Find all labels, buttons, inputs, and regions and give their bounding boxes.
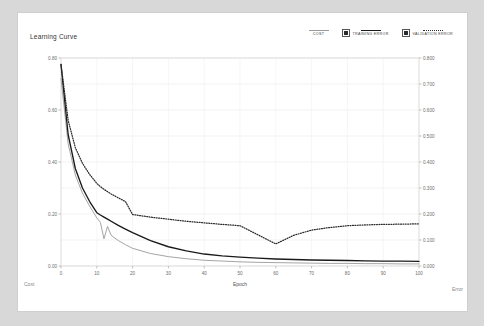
y-tick-label: 0.00 xyxy=(48,264,57,269)
x-tick-label: 0 xyxy=(60,271,63,276)
x-tick-label: 10 xyxy=(94,271,100,276)
y2-tick-label: 0.300 xyxy=(423,186,435,191)
y2-tick-label: 0.700 xyxy=(423,82,435,87)
y-tick-label: 0.80 xyxy=(48,56,57,61)
y2-tick-label: 0.000 xyxy=(423,264,435,269)
y-axis-left-title: Cost xyxy=(24,281,35,287)
x-tick-label: 50 xyxy=(237,271,243,276)
learning-curve-chart: 0102030405060708090100 0.000.200.400.600… xyxy=(18,13,469,313)
x-tick-label: 60 xyxy=(273,271,279,276)
y2-tick-label: 0.600 xyxy=(423,108,435,113)
y-tick-label: 0.20 xyxy=(48,212,57,217)
y2-tick-label: 0.200 xyxy=(423,212,435,217)
y-axis-left: 0.000.200.400.600.80 xyxy=(48,56,61,269)
x-tick-label: 80 xyxy=(345,271,351,276)
y-tick-label: 0.40 xyxy=(48,160,57,165)
grid-lines xyxy=(61,58,419,266)
x-tick-label: 100 xyxy=(415,271,423,276)
x-tick-label: 30 xyxy=(166,271,172,276)
y2-tick-label: 0.100 xyxy=(423,238,435,243)
x-tick-label: 70 xyxy=(309,271,315,276)
x-tick-label: 90 xyxy=(381,271,387,276)
x-axis-title: Epoch xyxy=(233,281,247,287)
y-axis-right: 0.0000.1000.2000.3000.4000.5000.6000.700… xyxy=(419,56,435,269)
y-tick-label: 0.60 xyxy=(48,108,57,113)
y2-tick-label: 0.800 xyxy=(423,56,435,61)
chart-card: Learning Curve COST TRAINING ERROR VALID… xyxy=(17,12,468,312)
x-tick-label: 20 xyxy=(130,271,136,276)
y-axis-right-title: Error xyxy=(452,286,463,292)
x-axis: 0102030405060708090100 xyxy=(60,266,424,276)
y2-tick-label: 0.400 xyxy=(423,160,435,165)
y2-tick-label: 0.500 xyxy=(423,134,435,139)
x-tick-label: 40 xyxy=(202,271,208,276)
plot-area: 0102030405060708090100 0.000.200.400.600… xyxy=(18,13,469,313)
